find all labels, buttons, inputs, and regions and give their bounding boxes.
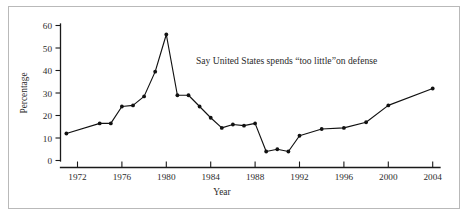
series-markers xyxy=(65,33,435,154)
data-point xyxy=(65,132,69,136)
y-tick-label-50: 50 xyxy=(43,44,53,54)
y-axis-tick-labels: 60 50 40 30 20 10 0 xyxy=(43,21,53,166)
x-axis: 1972 1976 1980 1984 1988 1992 1996 2000 … xyxy=(61,162,443,198)
data-point xyxy=(131,103,135,107)
x-tick-label-2004: 2004 xyxy=(424,172,443,182)
y-axis: 60 50 40 30 20 10 0 Percentage xyxy=(19,21,61,166)
data-point xyxy=(253,121,257,125)
x-tick-label-1996: 1996 xyxy=(335,172,354,182)
series-line-too-little xyxy=(66,35,432,152)
data-point xyxy=(220,126,224,130)
x-tick-label-1972: 1972 xyxy=(68,172,87,182)
data-point xyxy=(431,87,435,91)
chart-figure: 60 50 40 30 20 10 0 Percentage xyxy=(0,0,468,221)
data-point xyxy=(198,105,202,109)
data-point xyxy=(386,103,390,107)
chart-annotation: Say United States spends “too little”on … xyxy=(196,55,377,66)
y-axis-ticks xyxy=(56,26,61,161)
line-chart: 60 50 40 30 20 10 0 Percentage xyxy=(0,0,468,221)
data-point xyxy=(153,70,157,74)
x-axis-ticks xyxy=(78,162,433,168)
y-tick-label-40: 40 xyxy=(43,66,53,76)
x-axis-title: Year xyxy=(213,187,231,197)
data-point xyxy=(364,120,368,124)
x-tick-label-2000: 2000 xyxy=(379,172,398,182)
y-axis-title: Percentage xyxy=(19,72,29,113)
data-point xyxy=(231,123,235,127)
x-tick-label-1976: 1976 xyxy=(113,172,132,182)
x-tick-label-1984: 1984 xyxy=(202,172,221,182)
data-point xyxy=(287,150,291,154)
data-point xyxy=(176,93,180,97)
data-point xyxy=(264,150,268,154)
x-tick-label-1992: 1992 xyxy=(290,172,309,182)
data-point xyxy=(98,121,102,125)
data-point xyxy=(142,94,146,98)
data-point xyxy=(209,116,213,120)
data-point xyxy=(320,127,324,131)
data-point xyxy=(298,134,302,138)
data-point xyxy=(187,93,191,97)
data-point xyxy=(342,126,346,130)
y-tick-label-30: 30 xyxy=(43,89,53,99)
y-tick-label-0: 0 xyxy=(47,156,52,166)
data-point xyxy=(242,124,246,128)
x-tick-label-1980: 1980 xyxy=(157,172,176,182)
y-tick-label-10: 10 xyxy=(43,134,53,144)
x-axis-tick-labels: 1972 1976 1980 1984 1988 1992 1996 2000 … xyxy=(68,172,442,182)
y-tick-label-20: 20 xyxy=(43,111,53,121)
data-point xyxy=(120,105,124,109)
y-tick-label-60: 60 xyxy=(43,21,53,31)
x-tick-label-1988: 1988 xyxy=(246,172,265,182)
data-point xyxy=(164,33,168,37)
data-point xyxy=(109,121,113,125)
series-group xyxy=(65,33,435,154)
data-point xyxy=(275,147,279,151)
